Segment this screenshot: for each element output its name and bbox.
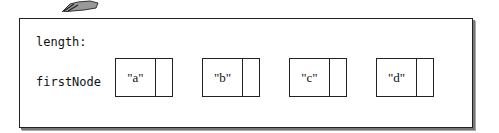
node-d: "d" [376, 58, 434, 97]
node-c: "c" [289, 58, 347, 97]
linked-list-object-box: length: firstNode "a" "b" "c" "d" [19, 18, 473, 128]
node-next-pointer [330, 59, 346, 96]
node-a: "a" [115, 58, 173, 97]
node-next-pointer [417, 59, 433, 96]
length-field-label: length: [36, 35, 87, 49]
node-b: "b" [202, 58, 260, 97]
node-next-pointer [156, 59, 172, 96]
node-data: "a" [116, 59, 156, 96]
node-next-pointer [243, 59, 259, 96]
pencil-hand-icon [60, 0, 100, 12]
node-data: "c" [290, 59, 330, 96]
first-node-field-label: firstNode [36, 75, 101, 89]
node-data: "b" [203, 59, 243, 96]
node-data: "d" [377, 59, 417, 96]
